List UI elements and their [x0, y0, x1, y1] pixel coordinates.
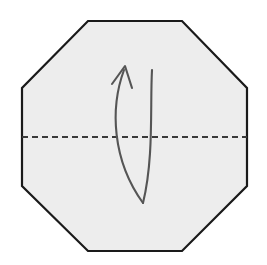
diagram-svg: [0, 0, 267, 265]
origami-diagram-canvas: Octagon valley fold diagram Fold the oct…: [0, 0, 267, 265]
